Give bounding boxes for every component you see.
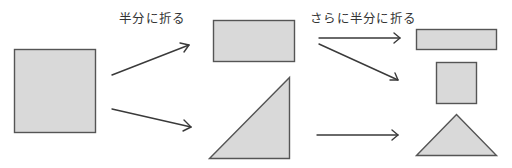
half-right-triangle <box>210 78 290 159</box>
original-square <box>15 50 96 133</box>
label-fold-in-half: 半分に折る <box>119 11 186 27</box>
diagram-canvas <box>0 0 512 168</box>
quarter-isosceles-triangle <box>417 115 497 156</box>
quarter-thin-rectangle <box>417 30 497 50</box>
arrow-rectangle-to-small-square <box>319 44 398 80</box>
label-fold-in-half-again: さらに半分に折る <box>310 11 416 27</box>
folding-diagram: 半分に折る さらに半分に折る <box>0 0 512 168</box>
half-rectangle <box>214 21 295 62</box>
arrow-square-to-rectangle <box>112 43 189 75</box>
arrow-square-to-triangle <box>112 109 191 131</box>
arrow-rectangle-to-thin-rectangle <box>319 33 400 43</box>
arrow-triangle-to-isosceles-triangle <box>317 130 398 140</box>
quarter-small-square <box>437 63 477 104</box>
